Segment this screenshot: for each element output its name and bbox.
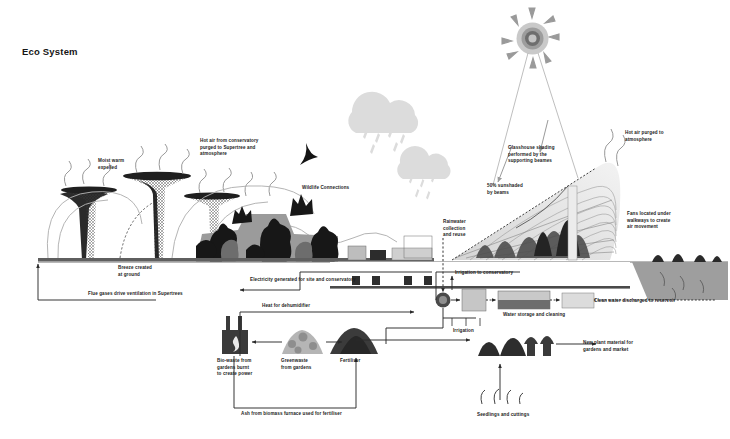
bird-icon	[300, 143, 318, 165]
greenwaste-pile	[282, 330, 323, 354]
label-water-storage: Water storage and cleaning	[503, 312, 565, 319]
sun-ray	[493, 53, 578, 185]
flue-flow-dashed	[120, 192, 156, 258]
biomass-furnace-icon	[222, 316, 248, 354]
label-seedlings: Seedlings and cuttings	[477, 412, 529, 419]
label-heat-dehumidifier: Heat for dehumidifier	[262, 303, 310, 310]
eco-system-diagram: Eco System	[0, 0, 730, 439]
label-irrigation: Irrigation	[453, 328, 474, 335]
label-breeze: Breeze created at ground	[118, 265, 152, 278]
label-greenwaste: Greenwaste from gardens	[281, 358, 311, 371]
label-electricity: Electricity generated for site and conse…	[250, 277, 356, 284]
cloud-rain-icon	[397, 146, 450, 200]
seedlings-icon	[481, 389, 523, 404]
label-rainwater: Rainwater collection and reuse	[443, 219, 466, 239]
label-sunshaded: 50% sunshaded by beams	[487, 183, 523, 196]
label-biowaste: Bio-waste from gardens burnt to create p…	[217, 358, 252, 378]
sun-icon	[502, 8, 559, 68]
label-hot-air-conservatory: Hot air from conservatory purged to Supe…	[200, 138, 258, 158]
label-moist-warm: Moist warm expelled	[98, 158, 124, 171]
label-flue-gases: Flue gases drive ventilation in Supertre…	[88, 291, 183, 298]
label-irrigation-conservatory: Irrigation to conservatory	[455, 270, 513, 277]
label-glasshouse-shading: Glasshouse shading performed by the supp…	[508, 145, 555, 165]
label-fans: Fans located under walkways to create ai…	[627, 211, 671, 231]
label-hot-air-purged: Hot air purged to atmosphere	[625, 130, 664, 143]
label-new-plant: New plant material for gardens and marke…	[583, 340, 633, 353]
fertiliser-pile	[330, 328, 378, 354]
new-plant-row	[478, 336, 554, 356]
label-fertiliser: Fertiliser	[340, 358, 360, 365]
label-clean-water: Clean water discharged to reservoir	[594, 298, 675, 305]
embankment	[632, 254, 728, 300]
cloud-rain-icon	[348, 92, 418, 154]
diagram-canvas	[0, 0, 730, 439]
label-wildlife-connections: Wildlife Connections	[302, 185, 349, 192]
label-ash: Ash from biomass furnace used for fertil…	[241, 411, 342, 418]
